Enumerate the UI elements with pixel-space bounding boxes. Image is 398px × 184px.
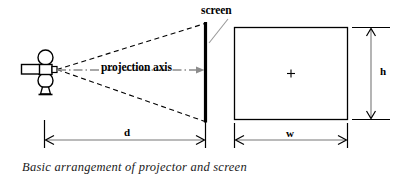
projector-upper-reel-icon [38, 50, 53, 65]
figure-basic-arrangement: screen projection axis d w h Basic arran… [0, 0, 398, 184]
screen-leader-line [209, 19, 228, 43]
screen-label: screen [201, 5, 231, 17]
distance-label: d [124, 127, 130, 138]
width-label: w [286, 128, 294, 139]
projection-axis-label: projection axis [101, 62, 172, 74]
diagram-canvas [0, 0, 398, 184]
projection-axis-arrowhead-icon [196, 67, 205, 74]
projector-icon [22, 50, 58, 95]
projector-stand-icon [41, 87, 51, 94]
projection-cone-lower [57, 70, 205, 122]
projector-body-icon [39, 65, 52, 75]
projector-lower-reel-icon [38, 73, 53, 88]
projector-nozzle-icon [52, 67, 57, 73]
height-label: h [380, 66, 386, 77]
projector-lens-icon [22, 65, 40, 75]
figure-caption: Basic arrangement of projector and scree… [22, 160, 247, 175]
